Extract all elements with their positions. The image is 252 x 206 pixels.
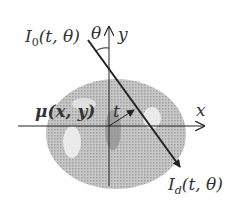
- ct-projection-diagram: I0(t, θ) θ y x μ(x, y) t Id(t, θ): [0, 0, 252, 206]
- t-label: t: [113, 101, 120, 121]
- bright-region-left: [63, 126, 81, 158]
- y-axis-label: y: [117, 24, 128, 44]
- object-cross-section: [46, 79, 186, 189]
- source-intensity-label: I0(t, θ): [24, 26, 80, 49]
- theta-angle-arc: [96, 48, 109, 51]
- detector-intensity-label: Id(t, θ): [167, 174, 223, 197]
- attenuation-mu-label: μ(x, y): [35, 101, 95, 121]
- x-axis-label: x: [196, 100, 206, 120]
- theta-label: θ: [91, 23, 101, 43]
